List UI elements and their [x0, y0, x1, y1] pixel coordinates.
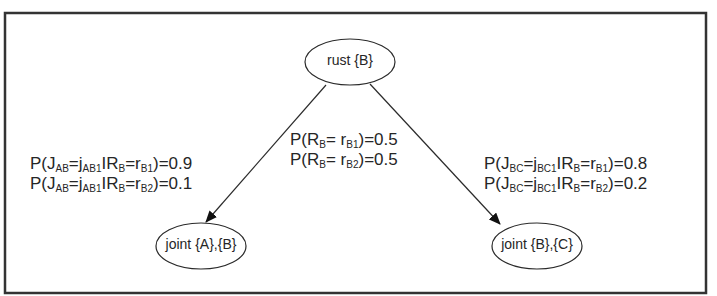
cond-prob-bc-label-2: P(JBC=jBC1IRB=rB2)=0.2 [484, 174, 647, 193]
cond-prob-ab-label-1: P(JAB=jAB1IRB=rB1)=0.9 [30, 154, 192, 173]
prior-prob-label-2: P(RB= rB2)=0.5 [290, 150, 398, 169]
prior-prob-label-1: P(RB= rB1)=0.5 [290, 130, 398, 149]
node-joint-bc-label: joint {B},{C} [488, 236, 586, 252]
cond-prob-bc-label-1: P(JBC=jBC1IRB=rB1)=0.8 [484, 154, 647, 173]
node-joint-ab-label: joint {A},{B} [152, 236, 250, 252]
cond-prob-ab-label-2: P(JAB=jAB1IRB=rB2)=0.1 [30, 174, 192, 193]
node-rust-label: rust {B} [305, 52, 395, 68]
